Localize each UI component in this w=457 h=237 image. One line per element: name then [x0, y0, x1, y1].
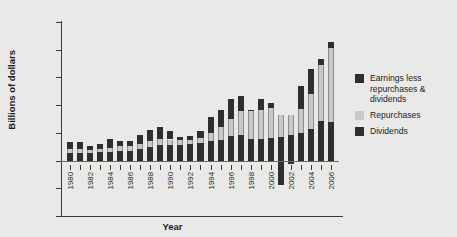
bar-segment-repurchases — [288, 115, 294, 136]
bar-segment-earnings — [238, 96, 244, 112]
bar-segment-earnings — [117, 141, 123, 146]
bar-segment-repurchases — [127, 146, 133, 150]
x-tick — [331, 165, 332, 170]
x-tick — [301, 165, 302, 170]
bar-segment-dividends — [187, 144, 193, 160]
chart-legend: Earnings less repurchases & dividendsRep… — [355, 73, 455, 142]
bar-segment-repurchases — [228, 119, 234, 136]
y-tick — [56, 50, 62, 51]
bar-segment-dividends — [218, 140, 224, 161]
bar-segment-repurchases — [117, 146, 123, 151]
chart-figure: Billions of dollars 10008006004002000-20… — [0, 0, 457, 237]
bar-segment-earnings — [87, 146, 93, 150]
x-tick — [140, 165, 141, 170]
legend-item: Repurchases — [355, 110, 455, 121]
bar-segment-repurchases — [157, 139, 163, 145]
bar-segment-repurchases — [298, 109, 304, 133]
bar-segment-earnings — [258, 99, 264, 110]
plot-area: 10008006004002000-200-400 19801982198419… — [62, 22, 340, 216]
bar-segment-earnings — [308, 69, 314, 94]
bar-segment-repurchases — [308, 94, 314, 130]
bar-segment-earnings — [218, 110, 224, 127]
bar-segment-repurchases — [278, 115, 284, 137]
bar-segment-dividends — [208, 141, 214, 160]
x-axis-title: Year — [0, 221, 457, 232]
x-tick — [90, 165, 91, 170]
x-tick — [281, 165, 282, 170]
x-tick-label: 2000 — [267, 172, 276, 189]
y-tick — [56, 77, 62, 78]
bar-segment-dividends — [268, 138, 274, 161]
x-tick-label: 1988 — [146, 172, 155, 189]
bar-segment-dividends — [77, 153, 83, 161]
legend-swatch-dark-icon — [355, 74, 364, 83]
x-tick-label: 2006 — [327, 172, 336, 189]
x-tick-label: 1986 — [126, 172, 135, 189]
x-tick — [200, 165, 201, 170]
bar-segment-repurchases — [187, 140, 193, 144]
bar-segment-earnings — [228, 99, 234, 119]
bar-segment-repurchases — [137, 144, 143, 149]
bar-segment-earnings — [248, 110, 254, 112]
bar-segment-earnings — [177, 137, 183, 140]
x-tick — [311, 165, 312, 170]
bar-segment-earnings — [147, 130, 153, 141]
bar-segment-dividends — [137, 149, 143, 161]
bar-segment-dividends — [278, 137, 284, 161]
x-tick — [321, 165, 322, 170]
bar-segment-earnings — [268, 103, 274, 107]
legend-item: Dividends — [355, 126, 455, 137]
x-tick — [70, 165, 71, 170]
bar-segment-repurchases — [67, 149, 73, 153]
x-tick — [271, 165, 272, 170]
bar-segment-earnings — [328, 42, 334, 48]
x-tick-label: 2002 — [287, 172, 296, 189]
legend-item: Earnings less repurchases & dividends — [355, 73, 455, 105]
x-tick — [251, 165, 252, 170]
bar-segment-dividends — [87, 153, 93, 161]
x-tick — [221, 165, 222, 170]
bar-segment-repurchases — [197, 138, 203, 143]
bar-segment-dividends — [228, 136, 234, 160]
bar-segment-earnings — [137, 135, 143, 144]
bar-segment-earnings — [157, 127, 163, 139]
bar-segment-earnings — [187, 136, 193, 140]
bar-segment-earnings — [208, 117, 214, 133]
x-tick-label: 1998 — [247, 172, 256, 189]
bar-segment-dividends — [147, 147, 153, 161]
x-tick — [110, 165, 111, 170]
x-tick — [241, 165, 242, 170]
bar-segment-earnings — [298, 86, 304, 109]
x-tick-label: 1984 — [106, 172, 115, 189]
bar-segment-dividends — [238, 135, 244, 161]
x-tick — [190, 165, 191, 170]
y-tick — [56, 188, 62, 189]
bar-segment-dividends — [248, 139, 254, 161]
x-tick — [180, 165, 181, 170]
legend-item-label: Dividends — [370, 126, 455, 137]
x-tick-label: 2004 — [307, 172, 316, 189]
bar-segment-dividends — [258, 139, 264, 161]
bar-segment-dividends — [67, 153, 73, 161]
x-axis-line — [61, 216, 343, 217]
bar-segment-dividends — [308, 129, 314, 160]
bar-segment-dividends — [298, 133, 304, 160]
bar-segment-earnings — [97, 144, 103, 149]
x-tick — [291, 165, 292, 170]
bar-segment-repurchases — [248, 111, 254, 138]
bar-segment-dividends — [318, 121, 324, 160]
bar-segment-repurchases — [77, 149, 83, 153]
bar-segment-dividends — [127, 151, 133, 161]
y-tick — [56, 105, 62, 106]
x-tick — [150, 165, 151, 170]
x-tick-label: 1982 — [86, 172, 95, 189]
bar-segment-repurchases — [97, 149, 103, 152]
bar-segment-repurchases — [218, 127, 224, 139]
bar-segment-repurchases — [268, 108, 274, 138]
bar-segment-earnings — [167, 131, 173, 140]
y-axis-title: Billions of dollars — [6, 50, 20, 130]
x-tick-label: 1990 — [166, 172, 175, 189]
x-tick — [211, 165, 212, 170]
bar-segment-repurchases — [258, 110, 264, 139]
bar-segment-repurchases — [318, 65, 324, 122]
